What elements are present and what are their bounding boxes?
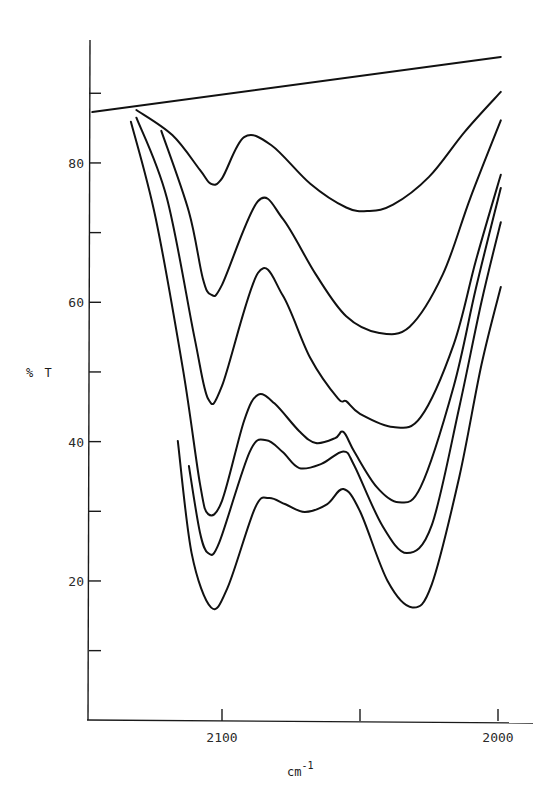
y-ticks: 80604020 [68, 93, 101, 650]
x-axis-title-exponent: -1 [301, 760, 313, 771]
spectrum-trace-6 [178, 287, 501, 609]
x-axis-title: cm-1 [287, 762, 314, 779]
y-tick-label: 60 [68, 295, 84, 310]
x-tick-label: 2000 [482, 730, 513, 745]
y-tick-label: 80 [68, 156, 84, 171]
y-tick-label: 20 [68, 574, 84, 589]
y-tick-label: 40 [68, 435, 84, 450]
ir-spectrum-chart: 80604020 21002000 [0, 0, 556, 806]
x-tick-label: 2100 [206, 730, 237, 745]
baseline-trace [92, 57, 501, 112]
spectrum-trace-3 [136, 118, 500, 428]
spectrum-trace-1 [136, 92, 500, 211]
x-axis-title-base: cm [287, 765, 301, 779]
spectrum-traces [92, 57, 501, 609]
x-ticks: 21002000 [206, 709, 513, 745]
spectrum-trace-4 [131, 122, 501, 516]
y-axis [88, 40, 90, 720]
y-axis-title: % T [26, 366, 54, 380]
x-axis [87, 720, 533, 723]
